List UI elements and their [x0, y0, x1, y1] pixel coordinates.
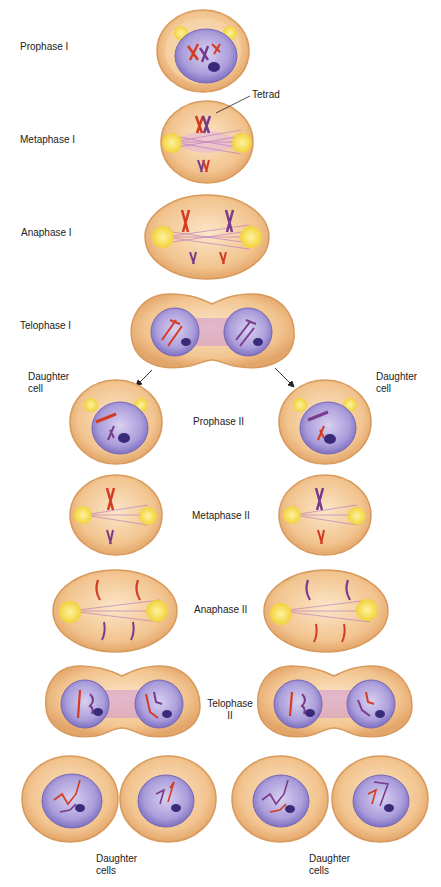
metaphase-1-cell — [161, 101, 253, 183]
metaphase-2-left-cell — [70, 475, 162, 555]
anaphase-2-left-cell — [53, 570, 177, 652]
prophase-1-cell — [157, 10, 249, 92]
label-telophase-1: Telophase I — [20, 320, 71, 332]
label-daughter-cell-left: Daughter cell — [28, 371, 69, 395]
label-prophase-2: Prophase II — [193, 416, 244, 428]
label-telophase-2: Telophase II — [205, 698, 255, 722]
daughter-cell-1 — [22, 756, 118, 842]
daughter-cell-3 — [232, 756, 328, 842]
prophase-2-left-cell — [70, 380, 162, 464]
anaphase-2-right-cell — [264, 570, 388, 652]
label-metaphase-2: Metaphase II — [192, 510, 250, 522]
label-metaphase-1: Metaphase I — [20, 134, 75, 146]
telophase-2-right-cell — [258, 666, 412, 737]
prophase-2-right-cell — [279, 380, 371, 464]
telophase-1-cell — [131, 294, 294, 368]
label-daughter-cells-right: Daughter cells — [309, 853, 350, 877]
label-anaphase-2: Anaphase II — [194, 604, 247, 616]
label-anaphase-1: Anaphase I — [21, 227, 72, 239]
label-daughter-cells-left: Daughter cells — [96, 853, 137, 877]
label-prophase-1: Prophase I — [20, 41, 68, 53]
arrow-left — [136, 370, 152, 386]
anaphase-1-cell — [145, 195, 269, 279]
arrow-right — [275, 368, 294, 387]
label-tetrad: Tetrad — [252, 89, 280, 101]
label-daughter-cell-right: Daughter cell — [376, 371, 417, 395]
telophase-2-left-cell — [46, 666, 200, 737]
daughter-cell-4 — [332, 756, 428, 842]
daughter-cell-2 — [120, 756, 216, 842]
metaphase-2-right-cell — [279, 475, 371, 555]
